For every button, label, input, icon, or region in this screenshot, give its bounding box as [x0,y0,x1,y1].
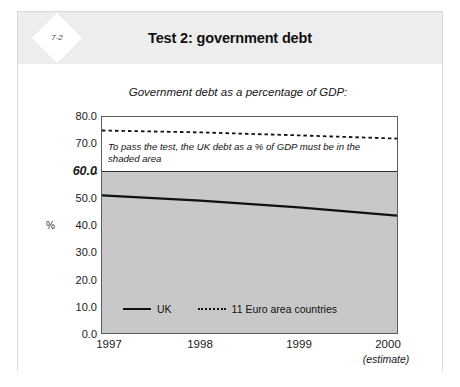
y-tick-50-0: 50.0 [25,192,97,204]
card-header: 7-2 Test 2: government debt [18,12,442,64]
plot-area: To pass the test, the UK debt as a % of … [101,116,398,334]
legend-label-euro: 11 Euro area countries [232,303,337,315]
chart-subtitle: Government debt as a percentage of GDP: [58,86,418,98]
y-tick-0-0: 0.0 [25,328,97,340]
y-tick-60-0: 60.0 [25,164,97,178]
legend-swatch-solid-icon [123,308,151,310]
page-title: Test 2: government debt [18,12,442,64]
y-tick-70-0: 70.0 [25,137,97,149]
y-tick-80-0: 80.0 [25,110,97,122]
y-axis-label: % [46,220,55,231]
series-lines [102,117,397,333]
series-line-euro [102,131,397,139]
slide-card: 7-2 Test 2: government debt Government d… [17,11,443,371]
y-tick-40-0: 40.0 [25,219,97,231]
legend-label-uk: UK [157,303,172,315]
legend-item-uk: UK [123,303,172,315]
chart-container: Government debt as a percentage of GDP: … [18,64,442,372]
threshold-arrow-icon: → [88,164,100,178]
chart-legend: UK 11 Euro area countries [123,303,337,315]
y-tick-20-0: 20.0 [25,274,97,286]
x-tick-2000: 2000 [375,338,401,350]
legend-item-euro: 11 Euro area countries [198,303,337,315]
series-line-uk [102,195,397,215]
x-tick-1999: 1999 [286,338,312,350]
x-axis-note-estimate: (estimate) [363,353,410,365]
legend-swatch-dotted-icon [198,308,226,310]
y-tick-30-0: 30.0 [25,246,97,258]
x-tick-1998: 1998 [187,338,213,350]
x-tick-1997: 1997 [96,338,122,350]
y-tick-10-0: 10.0 [25,301,97,313]
y-axis: 0.010.020.030.040.050.060.0→70.080.0 [18,64,97,372]
